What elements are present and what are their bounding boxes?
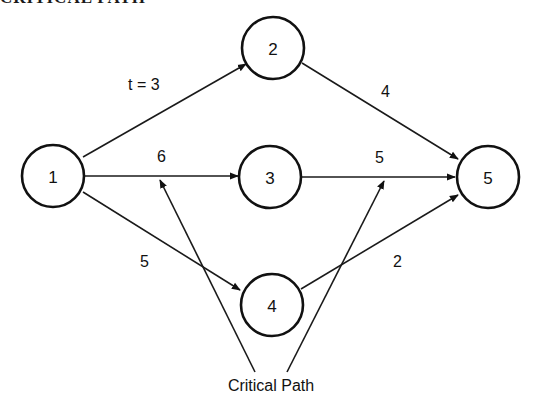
edge-4-5 [301, 195, 458, 289]
node-label-4: 4 [267, 297, 276, 316]
node-4: 4 [241, 274, 303, 336]
edge-label-2-5: 4 [381, 83, 390, 100]
edge-label-1-3: 6 [157, 148, 166, 165]
critical-path-label: Critical Path [228, 377, 314, 394]
edge-2-5 [302, 63, 458, 159]
edge-1-4 [83, 192, 240, 290]
edge-1-2 [83, 64, 246, 157]
node-5: 5 [457, 146, 519, 208]
critical-path-pointer-left [160, 180, 255, 372]
edge-label-1-4: 5 [140, 253, 149, 270]
edge-label-1-2: t = 3 [128, 76, 160, 93]
node-label-5: 5 [483, 169, 492, 188]
edge-label-3-5: 5 [375, 149, 384, 166]
node-2: 2 [242, 17, 304, 79]
node-label-3: 3 [265, 169, 274, 188]
node-1: 1 [22, 145, 84, 207]
network-diagram: t = 3 6 5 4 5 2 1 2 3 4 5 Critical Path [0, 0, 535, 412]
node-label-1: 1 [48, 168, 57, 187]
edge-label-4-5: 2 [393, 253, 402, 270]
critical-path-pointer-right [287, 181, 384, 372]
node-3: 3 [239, 146, 301, 208]
node-label-2: 2 [268, 40, 277, 59]
